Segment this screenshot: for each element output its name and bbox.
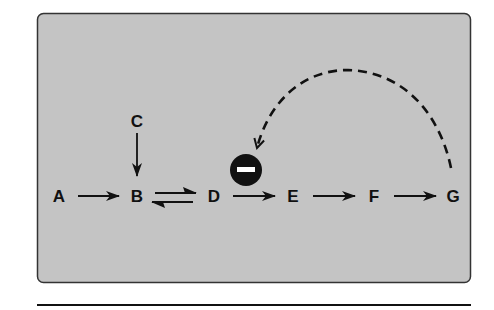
diagram-panel [38, 14, 471, 283]
node-d: D [208, 187, 220, 206]
node-g: G [446, 187, 459, 206]
node-b: B [131, 187, 143, 206]
minus-circle-icon [230, 154, 262, 186]
node-c: C [131, 112, 143, 131]
node-e: E [287, 187, 298, 206]
node-f: F [369, 187, 379, 206]
node-a: A [53, 187, 65, 206]
pathway-diagram: A B C D E F G [0, 0, 494, 310]
